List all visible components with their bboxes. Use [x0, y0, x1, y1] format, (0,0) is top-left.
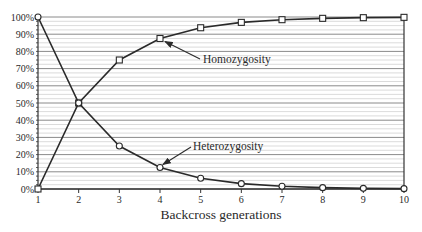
x-tick-label: 8 — [320, 194, 325, 205]
data-point-homozygosity — [401, 14, 407, 20]
x-tick-label: 5 — [198, 194, 203, 205]
grid — [38, 17, 404, 189]
y-tick-label: 80% — [16, 46, 34, 57]
data-point-homozygosity — [360, 15, 366, 21]
y-tick-label: 70% — [16, 63, 34, 74]
x-tick-label: 3 — [117, 194, 122, 205]
annotation-arrow — [163, 147, 191, 165]
annotation-arrow — [165, 42, 200, 60]
y-tick-label: 100% — [11, 12, 34, 23]
data-point-homozygosity — [35, 186, 41, 192]
data-point-heterozygosity — [401, 186, 407, 192]
y-tick-label: 20% — [16, 149, 34, 160]
y-tick-label: 0% — [21, 184, 34, 195]
x-tick-label: 6 — [239, 194, 244, 205]
data-point-heterozygosity — [238, 181, 244, 187]
y-tick-label: 60% — [16, 80, 34, 91]
y-tick-labels: 0%10%20%30%40%50%60%70%80%90%100% — [11, 12, 34, 195]
x-tick-label: 1 — [36, 194, 41, 205]
y-tick-label: 50% — [16, 98, 34, 109]
data-point-heterozygosity — [116, 143, 122, 149]
y-tick-label: 30% — [16, 132, 34, 143]
data-point-homozygosity — [238, 19, 244, 25]
annotation-heterozygosity: Heterozygosity — [193, 140, 264, 153]
data-point-heterozygosity — [35, 14, 41, 20]
x-tick-labels: 12345678910 — [36, 194, 410, 205]
data-point-homozygosity — [116, 57, 122, 63]
data-point-heterozygosity — [157, 165, 163, 171]
data-point-heterozygosity — [320, 185, 326, 191]
data-point-homozygosity — [198, 25, 204, 31]
y-tick-label: 90% — [16, 29, 34, 40]
annotation-homozygosity: Homozygosity — [203, 53, 271, 66]
x-tick-label: 4 — [158, 194, 163, 205]
data-point-homozygosity — [320, 15, 326, 21]
data-point-homozygosity — [157, 36, 163, 42]
axes — [36, 17, 404, 193]
y-tick-label: 40% — [16, 115, 34, 126]
chart: 0%10%20%30%40%50%60%70%80%90%100% 123456… — [0, 0, 422, 232]
data-point-homozygosity — [279, 17, 285, 23]
data-point-heterozygosity — [198, 175, 204, 181]
data-point-heterozygosity — [76, 100, 82, 106]
x-tick-label: 10 — [399, 194, 409, 205]
y-tick-label: 10% — [16, 166, 34, 177]
x-tick-label: 7 — [280, 194, 285, 205]
data-point-heterozygosity — [360, 185, 366, 191]
x-tick-label: 2 — [76, 194, 81, 205]
x-tick-label: 9 — [361, 194, 366, 205]
data-point-heterozygosity — [279, 183, 285, 189]
x-axis-title: Backcross generations — [160, 207, 281, 222]
